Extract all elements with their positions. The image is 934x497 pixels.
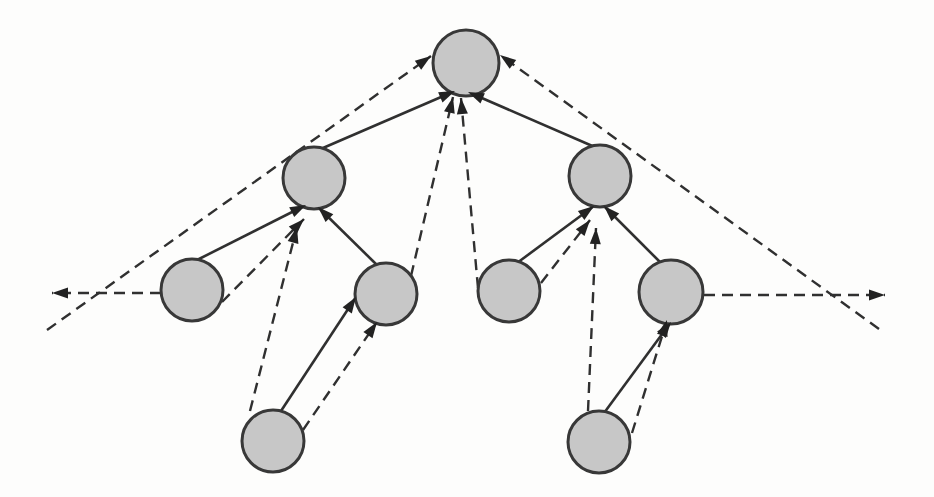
arrowhead-right-outer-grandchild-to-right-neighbor bbox=[869, 290, 885, 301]
edge-left-leaf-to-left-child-dashed bbox=[250, 227, 297, 411]
tree-node-right-leaf bbox=[568, 411, 630, 473]
edge-right-leaf-to-right-child-dashed bbox=[588, 228, 596, 411]
tree-node-right-child bbox=[569, 145, 631, 207]
tree-node-right-outer-grandchild bbox=[639, 260, 703, 324]
edge-left-outer-grandchild-to-left-child-dashed bbox=[222, 219, 304, 302]
arrowhead-right-child-to-root bbox=[468, 92, 485, 103]
edge-right-inner-grandchild-to-root-dashed bbox=[461, 98, 478, 288]
edge-left-child-to-root-solid bbox=[316, 91, 455, 151]
tree-node-left-leaf bbox=[242, 410, 304, 472]
edge-right-child-to-root-solid bbox=[468, 92, 597, 148]
edge-right-leaf-to-right-outer-grandchild-dashed bbox=[632, 320, 667, 433]
edge-left-inner-grandchild-to-root-dashed bbox=[411, 97, 453, 276]
arrowhead-left-neighbor-to-root bbox=[415, 56, 431, 70]
edge-left-leaf-to-left-inner-grandchild-solid bbox=[281, 297, 356, 411]
arrowhead-right-neighbor-to-root bbox=[500, 55, 516, 69]
tree-node-left-outer-grandchild bbox=[161, 259, 223, 321]
arrowhead-right-leaf-to-right-child bbox=[590, 228, 601, 244]
tree-node-left-inner-grandchild bbox=[355, 263, 417, 325]
arrowhead-left-outer-grandchild-to-left-neighbor bbox=[52, 288, 68, 299]
arrowhead-right-inner-grandchild-to-right-child bbox=[578, 206, 594, 220]
arrowhead-left-leaf-to-left-inner-grandchild bbox=[363, 322, 377, 338]
diagram-canvas bbox=[0, 0, 934, 497]
tree-node-right-inner-grandchild bbox=[478, 260, 540, 322]
arrowhead-left-leaf-to-left-inner-grandchild bbox=[343, 297, 356, 313]
tree-node-left-child bbox=[283, 147, 345, 209]
tree-pointer-diagram bbox=[0, 0, 934, 497]
edge-right-leaf-to-right-outer-grandchild-solid bbox=[604, 322, 671, 413]
edge-left-leaf-to-left-inner-grandchild-dashed bbox=[303, 322, 377, 430]
tree-node-root bbox=[433, 30, 499, 96]
arrowhead-left-outer-grandchild-to-left-child bbox=[289, 205, 306, 217]
